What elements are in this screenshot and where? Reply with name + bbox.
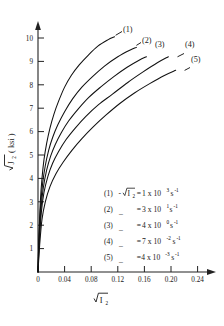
legend-unit-exponent-4: -1 <box>176 235 181 241</box>
x-axis-title: I 2 <box>94 293 108 306</box>
leader-1 <box>116 32 122 36</box>
y-ticklabel-10: 10 <box>26 35 34 43</box>
curve-label-2: (2) <box>142 36 152 45</box>
x-ticklabel-6: 0.24 <box>191 276 204 284</box>
x-tick-group <box>38 266 198 272</box>
y-axis-arrowhead <box>35 21 41 30</box>
legend: (1) - I 2 = 1 x 10 3 s -1 (2) _ = 3 x 10… <box>104 187 181 263</box>
x-ticklabel-2: 0.08 <box>85 276 98 284</box>
legend-unit-4: s <box>173 237 176 246</box>
legend-unit-exponent-1: -1 <box>174 187 179 193</box>
leader-5 <box>185 68 190 71</box>
chart-svg: 1 2 3 4 5 6 7 8 9 10 0 0.04 0.08 0.12 0. <box>0 0 224 326</box>
y-ticklabel-3: 3 <box>29 199 33 207</box>
y-ticklabel-8: 8 <box>29 82 33 90</box>
x-axis-title-sub: 2 <box>105 300 108 306</box>
legend-mantissa-1: 1 x 10 <box>142 189 161 198</box>
y-axis-title-root: J <box>7 160 16 164</box>
y-axis-title-inner: J 2 ( ksi ) <box>5 133 18 170</box>
legend-equals-4: = <box>137 237 141 246</box>
legend-unit-exponent-5: -1 <box>175 251 180 257</box>
legend-mantissa-2: 3 x 10 <box>142 205 161 214</box>
legend-dash-2: _ <box>118 207 123 216</box>
curve-label-5: (5) <box>191 55 201 64</box>
legend-row-5: (5) _ = 4 x 10 -3 s -1 <box>104 251 180 263</box>
x-ticklabel-5: 0.20 <box>165 276 178 284</box>
legend-dash-4: _ <box>118 239 123 248</box>
y-ticklabel-2: 2 <box>29 222 33 230</box>
x-ticklabel-group: 0 0.04 0.08 0.12 0.16 0.20 0.24 <box>36 276 204 284</box>
legend-equals-3: = <box>137 221 141 230</box>
legend-mantissa-5: 4 x 10 <box>141 253 160 262</box>
y-ticklabel-4: 4 <box>29 175 33 183</box>
curve-3 <box>38 57 146 272</box>
axis-group <box>35 21 216 275</box>
chart-figure: 1 2 3 4 5 6 7 8 9 10 0 0.04 0.08 0.12 0. <box>0 0 224 326</box>
x-ticklabel-4: 0.16 <box>138 276 151 284</box>
legend-exponent-5: -3 <box>165 251 170 257</box>
legend-exponent-1: 3 <box>167 187 170 193</box>
y-axis-title: J 2 ( ksi ) <box>5 133 18 170</box>
x-axis-arrowhead <box>207 269 216 275</box>
legend-row-2: (2) _ = 3 x 10 1 s -1 <box>104 203 178 215</box>
legend-equals-1: = <box>137 189 141 198</box>
legend-unit-3: s <box>170 221 173 230</box>
x-axis-title-root: I <box>100 296 103 305</box>
leader-2 <box>136 43 141 46</box>
y-ticklabel-group: 1 2 3 4 5 6 7 8 9 10 <box>26 35 34 254</box>
legend-mantissa-3: 4 x 10 <box>142 221 161 230</box>
legend-exponent-4: -2 <box>167 235 172 241</box>
y-axis-title-unit: ( ksi ) <box>7 133 16 153</box>
legend-unit-1: s <box>171 189 174 198</box>
legend-symbol-sub-1: 2 <box>132 193 135 199</box>
legend-dash-5: _ <box>118 255 123 264</box>
legend-key-5: (5) <box>104 253 113 262</box>
curve-label-group: (1) (2) (3) (4) (5) <box>123 25 201 64</box>
x-ticklabel-0: 0 <box>36 276 40 284</box>
legend-key-3: (3) <box>104 221 113 230</box>
legend-unit-exponent-2: -1 <box>174 203 179 209</box>
legend-key-4: (4) <box>104 237 113 246</box>
legend-mantissa-4: 7 x 10 <box>142 237 161 246</box>
legend-row-1: (1) - I 2 = 1 x 10 3 s -1 <box>104 187 179 199</box>
leader-4 <box>178 54 185 57</box>
legend-row-4: (4) _ = 7 x 10 -2 s -1 <box>104 235 181 247</box>
legend-symbol-root-1: I <box>128 189 131 198</box>
curve-label-1: (1) <box>123 25 133 34</box>
legend-equals-2: = <box>137 205 141 214</box>
curve-leader-group <box>116 32 190 71</box>
legend-row-3: (3) _ = 4 x 10 0 s -1 <box>104 219 179 231</box>
curve-1 <box>38 37 114 272</box>
legend-unit-exponent-3: -1 <box>174 219 179 225</box>
y-axis-title-sub: 2 <box>11 156 17 159</box>
curve-label-4: (4) <box>185 40 195 49</box>
y-ticklabel-1: 1 <box>29 245 33 253</box>
x-ticklabel-3: 0.12 <box>112 276 125 284</box>
y-ticklabel-9: 9 <box>29 58 33 66</box>
legend-minus-1: - <box>119 189 122 198</box>
legend-dash-3: _ <box>118 223 123 232</box>
legend-key-1: (1) <box>104 189 113 198</box>
legend-key-2: (2) <box>104 205 113 214</box>
y-ticklabel-5: 5 <box>29 152 33 160</box>
curve-label-3: (3) <box>155 40 165 49</box>
y-ticklabel-6: 6 <box>29 128 33 136</box>
x-ticklabel-1: 0.04 <box>58 276 71 284</box>
legend-unit-5: s <box>171 253 174 262</box>
legend-unit-2: s <box>170 205 173 214</box>
y-ticklabel-7: 7 <box>29 105 33 113</box>
